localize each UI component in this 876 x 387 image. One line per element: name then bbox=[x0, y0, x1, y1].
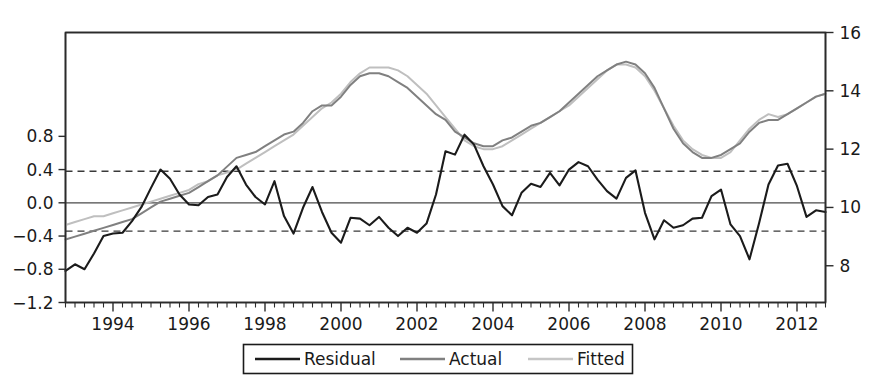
x-tick-label-0: 1994 bbox=[91, 314, 134, 334]
legend-label-fitted: Fitted bbox=[577, 349, 625, 369]
y-right-tick-label-4: 16 bbox=[840, 23, 862, 43]
y-left-tick-label-5: 0.8 bbox=[26, 126, 53, 146]
x-tick-label-9: 2012 bbox=[775, 314, 818, 334]
legend-label-actual: Actual bbox=[449, 349, 502, 369]
chart-canvas: −1.2−0.8−0.40.00.40.8 810121416 19941996… bbox=[0, 0, 876, 387]
y-left-tick-label-2: −0.4 bbox=[12, 226, 53, 246]
x-tick-label-4: 2002 bbox=[395, 314, 438, 334]
x-tick-label-6: 2006 bbox=[547, 314, 590, 334]
plot-area-border bbox=[66, 33, 826, 303]
residual-actual-fitted-chart: −1.2−0.8−0.40.00.40.8 810121416 19941996… bbox=[0, 0, 876, 387]
y-left-tick-label-3: 0.0 bbox=[26, 193, 53, 213]
y-left-tick-label-4: 0.4 bbox=[26, 160, 53, 180]
plot-frame bbox=[66, 33, 826, 303]
y-right-tick-label-3: 14 bbox=[840, 81, 862, 101]
x-tick-label-8: 2010 bbox=[699, 314, 742, 334]
y-left-tick-label-1: −0.8 bbox=[12, 259, 53, 279]
y-left-tick-label-0: −1.2 bbox=[12, 293, 53, 313]
x-tick-label-5: 2004 bbox=[471, 314, 514, 334]
x-tick-label-2: 1998 bbox=[243, 314, 286, 334]
y-right-tick-label-0: 8 bbox=[840, 256, 851, 276]
x-axis-ticks: 1994199619982000200220042006200820102012 bbox=[66, 303, 826, 334]
chart-legend[interactable]: Residual Actual Fitted bbox=[244, 345, 633, 374]
y-right-axis-ticks: 810121416 bbox=[826, 23, 862, 276]
x-tick-label-7: 2008 bbox=[623, 314, 666, 334]
x-tick-label-1: 1996 bbox=[167, 314, 210, 334]
x-tick-label-3: 2000 bbox=[319, 314, 362, 334]
legend-label-residual: Residual bbox=[304, 349, 376, 369]
y-right-tick-label-2: 12 bbox=[840, 139, 862, 159]
y-right-tick-label-1: 10 bbox=[840, 197, 862, 217]
y-left-axis-ticks: −1.2−0.8−0.40.00.40.8 bbox=[12, 126, 65, 312]
